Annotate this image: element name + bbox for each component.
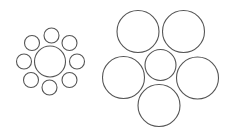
surround-circle xyxy=(42,80,57,95)
surround-circle xyxy=(177,57,219,99)
surround-circle xyxy=(25,36,40,51)
surround-circle xyxy=(138,85,180,127)
center-circle xyxy=(145,50,176,81)
surround-circle xyxy=(62,73,77,88)
surround-circle xyxy=(103,57,145,99)
ebbinghaus-illusion-figure xyxy=(0,0,226,134)
surround-circle xyxy=(24,73,39,88)
center-circle xyxy=(35,46,66,77)
surround-circle xyxy=(70,54,85,69)
surround-circle xyxy=(17,54,32,69)
surround-circle xyxy=(117,11,159,53)
surround-circle xyxy=(44,28,59,43)
right-large-surround-group xyxy=(103,11,219,127)
surround-circle xyxy=(62,36,77,51)
left-small-surround-group xyxy=(17,28,85,95)
surround-circle xyxy=(163,11,205,53)
